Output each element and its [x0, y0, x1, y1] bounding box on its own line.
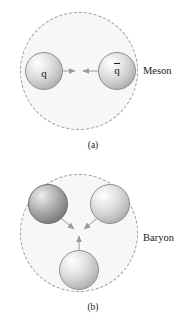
baryon-particle-label: Baryon	[143, 232, 174, 243]
meson-quark-sphere: q	[25, 52, 63, 90]
baryon-quark-sphere-top-left	[28, 184, 68, 224]
meson-antiquark-sphere: q	[98, 52, 136, 90]
baryon-quark-sphere-bottom	[59, 250, 99, 290]
baryon-figure-area: Baryon	[0, 162, 186, 302]
antiquark-symbol: q	[114, 64, 120, 76]
meson-panel: q q Meson (a)	[0, 0, 186, 162]
meson-particle-label: Meson	[143, 65, 172, 76]
meson-caption: (a)	[0, 140, 186, 150]
baryon-panel: Baryon (b)	[0, 162, 186, 324]
baryon-quark-sphere-top-right	[90, 184, 130, 224]
meson-quark-label: q	[26, 66, 62, 79]
meson-antiquark-label: q	[99, 63, 135, 76]
meson-figure-area: q q Meson	[0, 0, 186, 140]
baryon-caption: (b)	[0, 302, 186, 312]
quark-symbol: q	[41, 67, 47, 79]
